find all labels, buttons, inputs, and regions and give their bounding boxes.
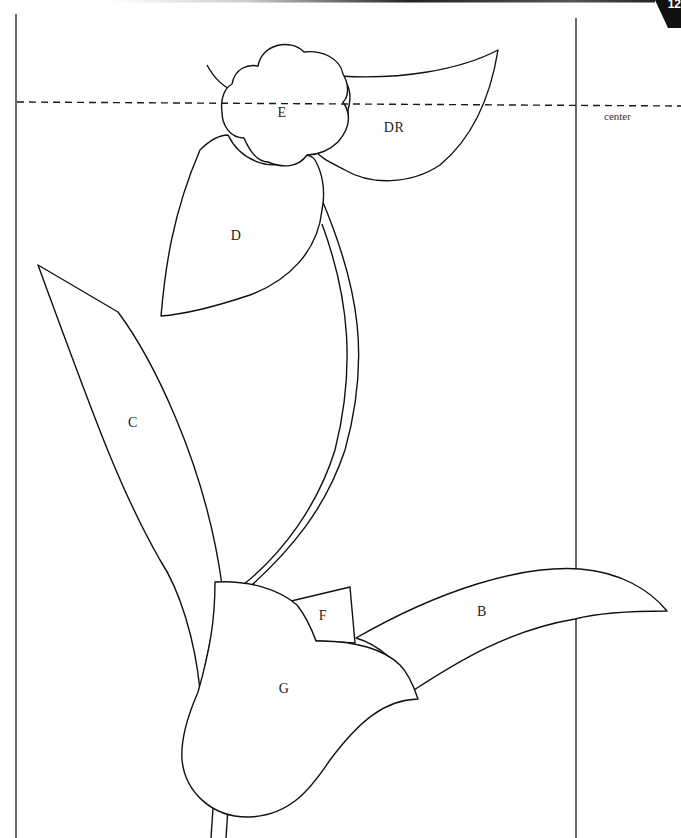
lower-stem-left bbox=[211, 808, 213, 838]
page-number: 12 bbox=[668, 0, 681, 11]
label-piece-c: C bbox=[128, 415, 138, 431]
piece-c bbox=[38, 265, 222, 690]
label-piece-g: G bbox=[279, 681, 290, 697]
label-piece-b: B bbox=[477, 604, 487, 620]
header-rule bbox=[110, 0, 655, 3]
label-piece-e: E bbox=[277, 105, 286, 121]
label-piece-f: F bbox=[319, 608, 327, 624]
pattern-page: 12 center E DR D C F B G bbox=[0, 0, 681, 838]
pattern-drawing bbox=[0, 0, 681, 838]
label-piece-dr: DR bbox=[384, 120, 404, 136]
center-label: center bbox=[604, 110, 631, 122]
piece-g bbox=[182, 582, 418, 817]
label-piece-d: D bbox=[231, 228, 242, 244]
